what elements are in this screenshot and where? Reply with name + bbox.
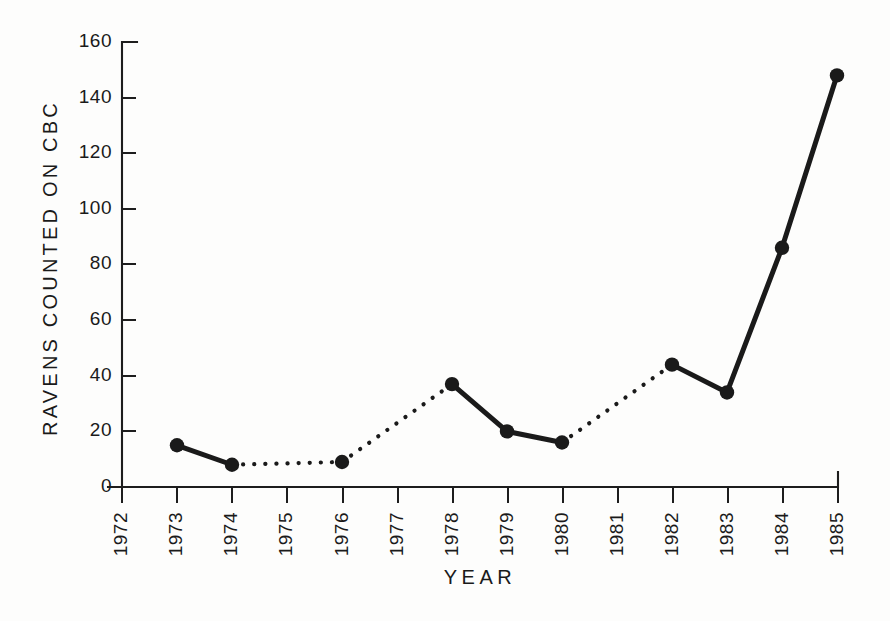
data-point [720,385,734,399]
x-tick-label: 1975 [275,512,296,556]
x-tick-label: 1980 [551,512,572,556]
x-tick-label: 1982 [661,512,682,556]
data-point [335,455,349,469]
x-tick-label: 1984 [771,512,792,556]
x-tick-label: 1976 [331,512,352,556]
x-axis-title: YEAR [444,566,516,588]
y-tick-label: 160 [79,30,112,51]
data-point [830,68,844,82]
x-axis-line [108,472,838,487]
x-tick-label: 1979 [496,512,517,556]
data-point [170,438,184,452]
series-segment-solid [727,248,782,393]
series-segment-dotted [562,365,672,443]
data-series [170,68,844,472]
data-point [665,357,679,371]
x-tick-label: 1983 [716,512,737,556]
y-tick-label: 60 [90,308,112,329]
series-segment-solid [177,445,232,464]
y-axis-tick-labels: 160 140 120 100 80 60 40 20 0 [79,30,112,496]
y-tick-label: 140 [79,86,112,107]
y-tick-label: 120 [79,141,112,162]
y-tick-label: 0 [101,475,112,496]
y-tick-label: 100 [79,197,112,218]
x-tick-label: 1978 [441,512,462,556]
y-tick-label: 20 [90,419,112,440]
x-tick-label: 1973 [165,512,186,556]
data-point [775,241,789,255]
data-point [225,458,239,472]
x-axis-tick-labels: 1972 1973 1974 1975 1976 1977 1978 1979 … [110,512,847,556]
series-segment-solid [672,365,727,393]
y-axis-title: RAVENS COUNTED ON CBC [39,100,61,436]
x-tick-label: 1985 [826,512,847,556]
data-point [555,435,569,449]
x-tick-label: 1974 [220,512,241,556]
y-tick-label: 80 [90,252,112,273]
series-segment-solid [507,431,562,442]
x-tick-label: 1977 [386,512,407,556]
line-chart: RAVENS COUNTED ON CBC 160 140 120 100 80… [0,0,890,621]
x-tick-label: 1981 [606,512,627,556]
data-point [500,424,514,438]
series-segment-dotted [232,462,342,465]
x-tick-label: 1972 [110,512,131,556]
y-tick-label: 40 [90,364,112,385]
series-segment-solid [782,75,837,247]
series-segment-solid [452,384,507,431]
series-segment-dotted [342,384,452,462]
x-axis-ticks [122,487,838,503]
chart-figure: RAVENS COUNTED ON CBC 160 140 120 100 80… [0,0,890,621]
y-axis-ticks [122,98,136,431]
data-point [445,377,459,391]
